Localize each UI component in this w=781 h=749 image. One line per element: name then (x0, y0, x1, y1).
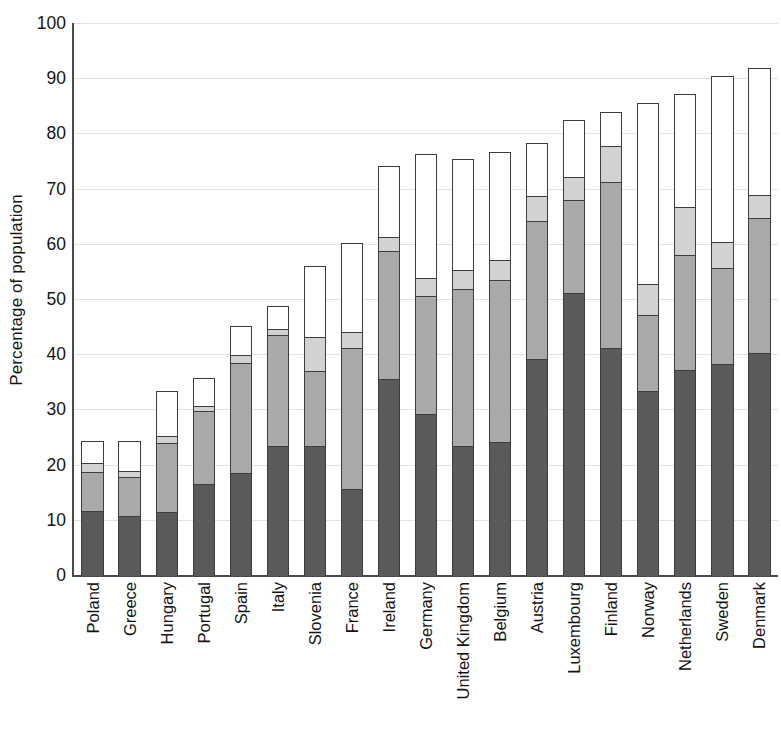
bar-segment-3 (379, 237, 399, 251)
bar-segment-4 (712, 77, 732, 241)
bar-norway[interactable] (637, 103, 659, 576)
bar-segment-2 (416, 296, 436, 414)
bar-slovenia[interactable] (304, 266, 326, 576)
bar-italy[interactable] (267, 306, 289, 576)
y-tick-label: 60 (47, 233, 66, 254)
bar-segment-1 (712, 364, 732, 576)
bar-segment-4 (342, 244, 362, 333)
bar-segment-1 (564, 293, 584, 576)
bar-spain[interactable] (230, 326, 252, 576)
y-tick-label: 30 (47, 399, 66, 420)
bar-segment-3 (490, 260, 510, 280)
bar-finland[interactable] (600, 112, 622, 576)
x-tick-label-slot: Norway (630, 578, 667, 748)
y-tick-label: 0 (56, 565, 66, 586)
bar-segment-2 (638, 315, 658, 390)
bar-segment-3 (416, 278, 436, 296)
bar-segment-2 (527, 221, 547, 359)
bar-segment-4 (379, 167, 399, 237)
bar-segment-2 (675, 255, 695, 370)
y-tick-label: 70 (47, 178, 66, 199)
bar-segment-3 (453, 270, 473, 289)
x-tick-label: Portugal (194, 582, 213, 643)
x-tick-label: Finland (602, 582, 621, 636)
bar-austria[interactable] (526, 143, 548, 576)
bar-segment-2 (601, 182, 621, 348)
bar-segment-1 (490, 442, 510, 576)
bar-segment-4 (638, 104, 658, 284)
bar-united-kingdom[interactable] (452, 159, 474, 576)
bar-segment-3 (342, 332, 362, 348)
x-tick-label-slot: Spain (222, 578, 259, 748)
bar-denmark[interactable] (748, 68, 770, 576)
bar-segment-4 (527, 144, 547, 196)
x-tick-label-slot: Hungary (148, 578, 185, 748)
x-tick-label-slot: Portugal (185, 578, 222, 748)
y-tick-label: 80 (47, 123, 66, 144)
bar-poland[interactable] (81, 441, 103, 576)
bar-segment-3 (231, 355, 251, 363)
bar-segment-4 (453, 160, 473, 270)
bar-segment-1 (194, 484, 214, 576)
x-tick-label-slot: Netherlands (667, 578, 704, 748)
bar-segment-2 (712, 268, 732, 364)
bar-belgium[interactable] (489, 152, 511, 576)
bar-segment-2 (82, 472, 102, 510)
bar-segment-1 (527, 359, 547, 576)
bar-segment-4 (564, 121, 584, 177)
bar-segment-1 (749, 353, 769, 576)
y-tick-label: 100 (37, 13, 66, 34)
bar-segment-4 (305, 267, 325, 337)
bar-ireland[interactable] (378, 166, 400, 576)
x-axis-tick-labels: PolandGreeceHungaryPortugalSpainItalySlo… (72, 578, 778, 748)
bar-luxembourg[interactable] (563, 120, 585, 576)
y-tick-label: 50 (47, 289, 66, 310)
bar-segment-4 (749, 69, 769, 196)
bar-segment-1 (231, 473, 251, 576)
bar-segment-1 (379, 379, 399, 576)
bar-greece[interactable] (118, 441, 140, 576)
bar-segment-1 (342, 489, 362, 576)
bar-segment-3 (675, 207, 695, 255)
x-tick-label: United Kingdom (454, 582, 473, 699)
bar-segment-4 (601, 113, 621, 146)
bar-segment-4 (157, 392, 177, 436)
bar-sweden[interactable] (711, 76, 733, 576)
bar-segment-1 (675, 370, 695, 576)
x-tick-label-slot: Italy (259, 578, 296, 748)
bar-segment-4 (416, 155, 436, 278)
bar-segment-3 (527, 196, 547, 221)
bar-portugal[interactable] (193, 378, 215, 576)
bar-segment-3 (305, 337, 325, 371)
bar-segment-2 (749, 218, 769, 352)
bar-segment-1 (601, 348, 621, 576)
x-tick-label: Norway (639, 582, 658, 638)
bar-segment-4 (490, 153, 510, 260)
bar-segment-3 (601, 146, 621, 182)
x-tick-label: Spain (231, 582, 250, 624)
x-tick-label-slot: United Kingdom (445, 578, 482, 748)
x-tick-label: Italy (268, 582, 287, 612)
x-tick-label: Austria (528, 582, 547, 633)
bar-segment-4 (231, 327, 251, 355)
bar-netherlands[interactable] (674, 94, 696, 576)
x-tick-label-slot: Germany (407, 578, 444, 748)
x-tick-label: Greece (120, 582, 139, 636)
bar-segment-2 (157, 443, 177, 513)
stacked-bar-chart: Percentage of population 010203040506070… (0, 0, 781, 749)
x-tick-label: Luxembourg (565, 582, 584, 674)
x-tick-label-slot: Denmark (741, 578, 778, 748)
bar-germany[interactable] (415, 154, 437, 576)
y-axis-title-text: Percentage of population (7, 194, 27, 385)
bar-segment-3 (638, 284, 658, 316)
bar-segment-1 (82, 511, 102, 576)
bar-france[interactable] (341, 243, 363, 576)
x-tick-label: Denmark (750, 582, 769, 649)
bar-segment-2 (379, 251, 399, 379)
bar-segment-4 (268, 307, 288, 328)
bar-hungary[interactable] (156, 391, 178, 576)
bar-segment-4 (82, 442, 102, 463)
bars-layer (74, 23, 778, 576)
y-tick-label: 40 (47, 344, 66, 365)
x-tick-label: Belgium (491, 582, 510, 642)
